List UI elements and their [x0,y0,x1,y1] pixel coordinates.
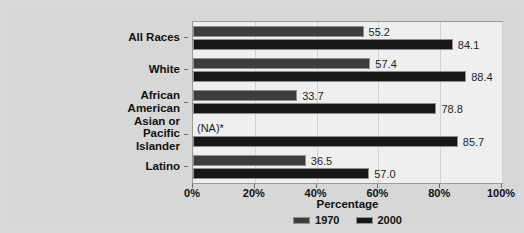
bar-group: (NA)*85.7 [193,119,502,151]
y-axis-label-line: Latino [146,160,181,173]
y-axis-label-latino: Latino [146,160,181,173]
bar-value-label: 88.4 [471,72,492,83]
bar-value-label: 36.5 [311,156,332,167]
bar-1970 [193,58,370,69]
y-axis-label-white: White [149,63,180,76]
y-axis-label-line: Asian or [134,115,180,128]
plot-area: 55.284.157.488.433.778.8(NA)*85.736.557.… [192,21,503,184]
legend-swatch-1970 [293,217,310,224]
y-axis-label-asian-or-pacific-islander: Asian orPacificIslander [134,115,180,153]
bar-value-label: 57.4 [375,59,396,70]
bar-value-label: 85.7 [463,137,484,148]
y-axis-label-line: White [149,63,180,76]
chart-figure: All RacesWhiteAfricanAmericanAsian orPac… [0,0,524,233]
legend-item-2000[interactable]: 2000 [356,215,402,226]
y-axis-tick [184,102,188,103]
legend-item-1970[interactable]: 1970 [293,215,339,226]
x-axis-tick-label: 0% [162,187,222,199]
y-axis-tick [184,166,188,167]
x-axis-tick-label: 40% [286,187,346,199]
bar-2000 [193,103,436,114]
legend-swatch-2000 [356,217,373,224]
legend-label-1970: 1970 [315,215,339,226]
bar-value-label: 84.1 [458,40,479,51]
y-axis-label-line: Islander [134,140,180,153]
bar-1970 [193,26,364,37]
bar-group: 55.284.1 [193,22,502,54]
gridline [502,22,503,183]
chart-board: All RacesWhiteAfricanAmericanAsian orPac… [6,8,518,226]
y-axis-category-labels: All RacesWhiteAfricanAmericanAsian orPac… [12,21,188,184]
bar-group: 36.557.0 [193,151,502,183]
bar-group: 33.778.8 [193,86,502,118]
legend-label-2000: 2000 [378,215,402,226]
bar-group: 57.488.4 [193,54,502,86]
bar-value-label: 55.2 [369,27,390,38]
y-axis-tick [184,69,188,70]
y-axis-label-line: Pacific [134,127,180,140]
y-axis-label-line: American [128,102,180,115]
y-axis-tick [184,134,188,135]
x-axis-tick-label: 60% [347,187,407,199]
y-axis-label-line: All Races [128,31,180,44]
bar-value-label: 57.0 [374,169,395,180]
bar-2000 [193,39,453,50]
x-axis-title: Percentage [192,198,503,210]
bar-2000 [193,71,466,82]
chart-legend: 19702000 [192,215,503,226]
y-axis-label-all-races: All Races [128,31,180,44]
y-axis-label-african-american: AfricanAmerican [128,89,180,114]
x-axis-tick-label: 80% [409,187,469,199]
bar-2000 [193,136,458,147]
bar-value-label: 33.7 [302,91,323,102]
y-axis-label-line: African [128,89,180,102]
bar-value-label: 78.8 [441,104,462,115]
cut-off-header-text [0,0,524,7]
bar-1970 [193,90,297,101]
bar-2000 [193,168,369,179]
x-axis-tick-label: 100% [471,187,524,199]
y-axis-tick [184,37,188,38]
bar-1970 [193,155,306,166]
x-axis-tick-label: 20% [224,187,284,199]
na-annotation: (NA)* [197,122,224,134]
